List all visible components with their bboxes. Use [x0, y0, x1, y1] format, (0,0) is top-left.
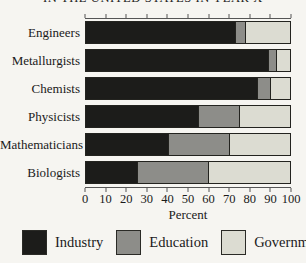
- bar-segment-government: [276, 50, 290, 71]
- legend-item-government: Government: [221, 230, 306, 255]
- bar-row: Chemists: [0, 74, 306, 102]
- category-label: Chemists: [0, 82, 85, 95]
- stacked-bar: [85, 21, 291, 44]
- stacked-bar: [85, 133, 291, 156]
- bar-segment-industry: [86, 22, 235, 43]
- bar-segment-industry: [86, 162, 137, 183]
- bar-row: Biologists: [0, 158, 306, 186]
- x-axis-tick-labels: 0102030405060708090100: [85, 193, 291, 206]
- legend: Industry Education Government: [0, 228, 306, 256]
- bar-row: Physicists: [0, 102, 306, 130]
- legend-label-industry: Industry: [55, 235, 103, 250]
- x-tick-label: 10: [99, 193, 112, 206]
- bar-row: Mathematicians: [0, 130, 306, 158]
- industry-swatch-icon: [22, 230, 47, 255]
- x-tick-label: 90: [264, 193, 277, 206]
- education-swatch-icon: [116, 230, 141, 255]
- legend-item-education: Education: [116, 230, 208, 255]
- bar-segment-government: [239, 106, 290, 127]
- legend-item-industry: Industry: [22, 230, 103, 255]
- chart-title-clipped: IN THE UNITED STATES IN YEAR X: [0, 0, 306, 6]
- bar-segment-education: [198, 106, 239, 127]
- x-tick-label: 60: [202, 193, 215, 206]
- stacked-bar: [85, 49, 291, 72]
- x-tick-label: 100: [282, 193, 301, 206]
- bar-segment-education: [168, 134, 229, 155]
- category-label: Metallurgists: [0, 54, 85, 67]
- x-tick-label: 40: [161, 193, 174, 206]
- bar-segment-industry: [86, 134, 168, 155]
- bar-row: Metallurgists: [0, 46, 306, 74]
- x-tick-label: 80: [244, 193, 257, 206]
- x-tick-label: 20: [120, 193, 133, 206]
- bar-segment-education: [235, 22, 245, 43]
- x-tick-label: 30: [141, 193, 154, 206]
- x-tick-label: 70: [223, 193, 236, 206]
- bar-segment-industry: [86, 106, 198, 127]
- bar-segment-government: [245, 22, 290, 43]
- x-tick-label: 50: [182, 193, 195, 206]
- legend-label-education: Education: [149, 235, 208, 250]
- bar-segment-industry: [86, 78, 257, 99]
- bar-segment-education: [257, 78, 269, 99]
- chart-title-text: IN THE UNITED STATES IN YEAR X: [0, 0, 306, 6]
- category-label: Engineers: [0, 26, 85, 39]
- category-label: Mathematicians: [0, 138, 85, 151]
- bar-segment-government: [270, 78, 290, 99]
- bar-segment-government: [229, 134, 290, 155]
- stacked-bar: [85, 161, 291, 184]
- stacked-bar: [85, 77, 291, 100]
- stacked-bar-chart-figure: IN THE UNITED STATES IN YEAR X Engineers…: [0, 0, 306, 263]
- bar-segment-government: [208, 162, 290, 183]
- bar-segment-industry: [86, 50, 268, 71]
- government-swatch-icon: [221, 230, 246, 255]
- category-label: Biologists: [0, 166, 85, 179]
- x-tick-label: 0: [82, 193, 88, 206]
- bar-rows: EngineersMetallurgistsChemistsPhysicists…: [0, 18, 306, 186]
- bar-row: Engineers: [0, 18, 306, 46]
- x-axis-label: Percent: [85, 207, 291, 223]
- category-label: Physicists: [0, 110, 85, 123]
- bar-segment-education: [137, 162, 208, 183]
- legend-label-government: Government: [254, 235, 306, 250]
- stacked-bar: [85, 105, 291, 128]
- bar-segment-education: [268, 50, 276, 71]
